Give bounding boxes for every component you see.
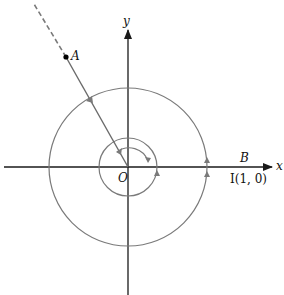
small-circle-arrow-lower	[154, 170, 160, 176]
point-I-label: I(1, 0)	[230, 172, 267, 186]
origin-label: O	[118, 171, 128, 185]
large-circle-arrow-xaxis-lower	[204, 171, 210, 177]
point-A-label: A	[70, 49, 80, 63]
point-A	[63, 54, 68, 59]
unit-circle-diagram: y x O A B I(1, 0)	[0, 0, 284, 295]
ray-extension-dashed	[34, 4, 66, 57]
large-circle-arrow-xaxis-upper	[204, 157, 210, 163]
x-axis-label: x	[276, 159, 283, 173]
y-axis-label: y	[122, 14, 130, 28]
point-B-label: B	[239, 151, 249, 165]
